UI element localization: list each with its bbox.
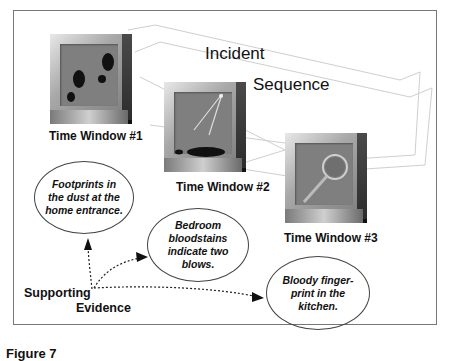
supporting-label: Supporting	[24, 286, 91, 300]
title-incident: Incident	[205, 44, 265, 64]
time-window-2-tile	[164, 82, 246, 172]
bloodstain-spatter-icon	[164, 82, 246, 172]
evidence-fingerprint: Bloody finger-print in the kitchen.	[266, 256, 370, 330]
evidence-label: Evidence	[76, 301, 131, 315]
evidence-footprints: Footprints in the dust at the home entra…	[34, 161, 134, 234]
title-sequence: Sequence	[253, 75, 330, 95]
time-window-1-label: Time Window #1	[49, 129, 143, 143]
time-window-1-tile	[50, 34, 132, 124]
magnifying-glass-icon	[285, 133, 367, 223]
time-window-3-tile	[285, 133, 367, 223]
time-window-3-label: Time Window #3	[284, 231, 378, 245]
figure-caption: Figure 7	[6, 346, 57, 361]
time-window-2-label: Time Window #2	[176, 180, 270, 194]
footprints-icon	[50, 34, 132, 124]
evidence-bloodstains: Bedroom bloodstains indicate two blows.	[147, 208, 249, 282]
